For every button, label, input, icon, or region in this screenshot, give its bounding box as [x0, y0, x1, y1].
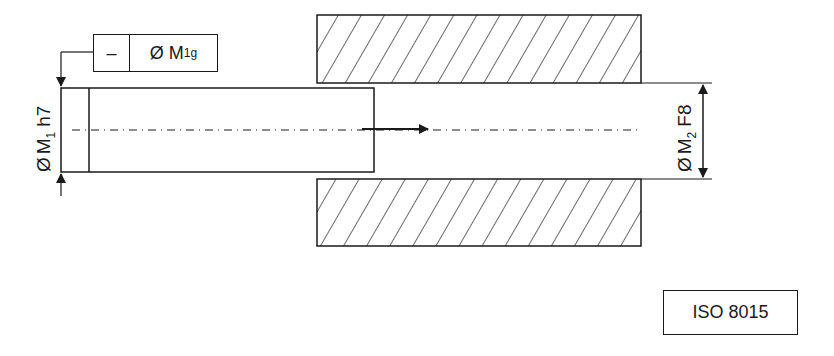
housing-top	[317, 15, 641, 83]
fcf-symbol: –	[106, 43, 116, 64]
straightness-symbol-icon: –	[94, 35, 130, 71]
iso-standard-label: ISO 8015	[692, 302, 768, 323]
feature-control-frame: – Ø M1g	[93, 34, 218, 72]
technical-drawing: ØM1h7 ØM2F8 – Ø M1g ISO 8015	[0, 0, 834, 356]
fcf-tolerance-main: M	[169, 43, 184, 64]
shaft-dimension-label: ØM1h7	[33, 106, 58, 172]
housing-bottom	[317, 179, 641, 246]
fcf-tolerance-sub: 1g	[184, 46, 197, 60]
diameter-symbol: Ø	[150, 43, 164, 64]
hole-dimension-label: ØM2F8	[674, 105, 699, 172]
shaft	[61, 88, 374, 172]
iso-standard-box: ISO 8015	[663, 290, 798, 335]
fcf-tolerance: Ø M1g	[130, 35, 217, 71]
